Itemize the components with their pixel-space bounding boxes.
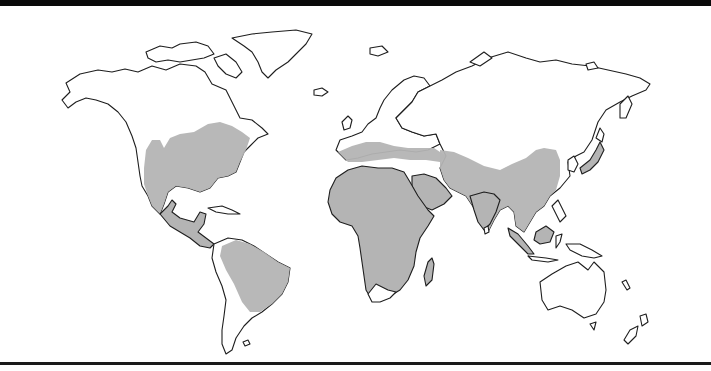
falkland-islands [243, 340, 250, 346]
arctic-russian-islands [586, 62, 598, 70]
baffin-island [214, 54, 242, 78]
korea [568, 156, 578, 172]
new-caledonia [622, 280, 630, 290]
central-america [160, 200, 214, 248]
sulawesi [556, 234, 562, 248]
borneo [534, 226, 554, 244]
caribbean-islands [208, 206, 240, 214]
india [470, 192, 500, 230]
british-isles [342, 116, 352, 130]
tasmania [590, 322, 596, 330]
australia [540, 262, 606, 318]
sri-lanka [484, 226, 489, 234]
world-map [0, 0, 711, 371]
java-islands [528, 256, 558, 262]
philippines [552, 200, 566, 222]
sumatra [508, 228, 534, 254]
new-zealand [624, 314, 648, 344]
new-guinea [566, 244, 602, 258]
svalbard [370, 46, 388, 56]
iceland [314, 88, 328, 96]
bottom-border [0, 362, 711, 365]
arctic-islands [146, 42, 214, 62]
greenland [232, 30, 312, 78]
japan-north [596, 128, 604, 142]
madagascar [424, 258, 434, 286]
